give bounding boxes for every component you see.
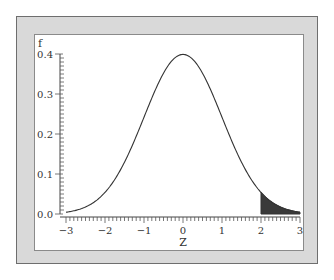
x-tick-label: 0 [180,225,186,236]
y-tick-label: 0.3 [37,89,53,100]
y-tick-label: 0.4 [37,49,53,60]
x-axis: −3−2−10123 [59,217,304,236]
x-axis-label: Z [179,236,187,249]
x-tick-label: 3 [297,225,303,236]
x-tick-label: 1 [219,225,225,236]
y-tick-label: 0.1 [37,169,53,180]
normal-distribution-chart: 0.00.10.20.30.4 −3−2−10123 f Z [0,0,334,280]
x-tick-label: −1 [137,225,152,236]
x-tick-label: −2 [98,225,113,236]
y-tick-label: 0.2 [37,129,53,140]
x-tick-label: 2 [258,225,264,236]
y-axis: 0.00.10.20.30.4 [37,49,64,220]
density-curve [66,54,300,212]
x-tick-label: −3 [59,225,74,236]
y-tick-label: 0.0 [37,209,53,220]
